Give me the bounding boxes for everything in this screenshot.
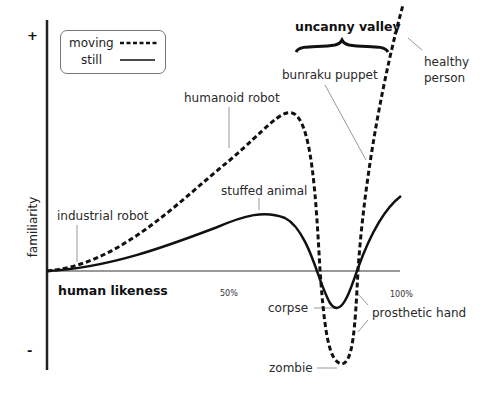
- label-healthy-person-line1: healthy: [424, 55, 469, 69]
- uncanny-valley-title: uncanny valley: [295, 20, 401, 34]
- x-tick-100: 100%: [390, 288, 413, 302]
- x-tick-50: 50%: [220, 287, 238, 301]
- label-bunraku-puppet: bunraku puppet: [282, 68, 378, 82]
- label-corpse: corpse: [268, 301, 308, 315]
- legend: moving still: [60, 30, 166, 74]
- label-stuffed-animal: stuffed animal: [221, 184, 307, 198]
- label-zombie: zombie: [269, 361, 313, 375]
- legend-still-label: still: [81, 53, 102, 67]
- label-industrial-robot: industrial robot: [57, 209, 149, 223]
- label-healthy-person-line2: person: [424, 71, 465, 85]
- uncanny-valley-brace: [296, 40, 388, 52]
- legend-moving-label: moving: [69, 36, 114, 50]
- y-minus-label: -: [27, 343, 32, 358]
- label-humanoid-robot: humanoid robot: [184, 91, 280, 105]
- label-prosthetic-hand: prosthetic hand: [372, 306, 466, 320]
- y-axis-label: familiarity: [26, 192, 40, 262]
- x-axis-label: human likeness: [58, 284, 168, 298]
- leader-lines: [77, 38, 422, 368]
- y-plus-label: +: [27, 28, 38, 43]
